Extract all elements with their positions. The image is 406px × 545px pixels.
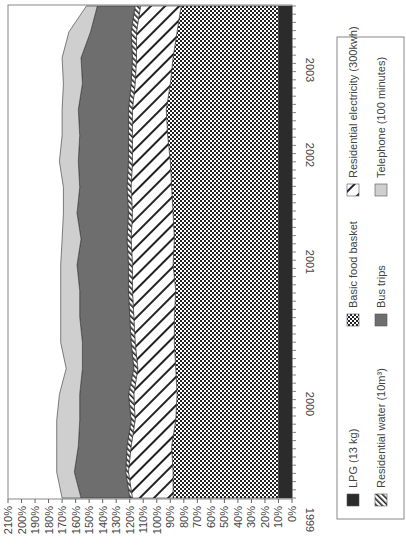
legend-swatch <box>375 494 387 506</box>
value-tick-label: 70% <box>191 506 203 528</box>
legend-label: LPG (13 kg) <box>347 429 359 488</box>
value-tick-label: 180% <box>43 506 55 534</box>
value-tick-label: 210% <box>2 506 14 534</box>
value-tick-label: 190% <box>29 506 41 534</box>
value-tick-label: 50% <box>218 506 230 528</box>
value-tick-label: 120% <box>124 506 136 534</box>
value-axis: 210%200%190%180%170%160%150%140%130%120%… <box>2 499 298 534</box>
value-tick-label: 80% <box>178 506 190 528</box>
value-tick-label: 170% <box>56 506 68 534</box>
legend-item: Bus trips <box>375 265 387 326</box>
year-label: 1999 <box>304 508 316 532</box>
legend-item: Residential electricity (300kwh) <box>347 26 359 196</box>
legend-item: LPG (13 kg) <box>347 429 359 506</box>
year-label: 2003 <box>304 58 316 82</box>
legend-swatch <box>347 314 359 326</box>
area-layers <box>57 6 292 498</box>
legend-swatch <box>347 494 359 506</box>
value-tick-label: 150% <box>83 506 95 534</box>
legend-label: Bus trips <box>375 265 387 308</box>
year-label: 2000 <box>304 392 316 416</box>
value-tick-label: 10% <box>272 506 284 528</box>
value-tick-label: 110% <box>137 506 149 534</box>
value-tick-label: 90% <box>164 506 176 528</box>
value-tick-label: 40% <box>232 506 244 528</box>
legend-swatch <box>347 184 359 196</box>
value-tick-label: 0% <box>286 506 298 522</box>
value-tick-label: 140% <box>97 506 109 534</box>
legend-item: Residential water (10m³) <box>375 368 387 506</box>
legend-label: Basic food basket <box>347 221 359 308</box>
legend-swatch <box>375 314 387 326</box>
value-tick-label: 30% <box>245 506 257 528</box>
area-bus-trips <box>74 6 135 498</box>
year-label: 2001 <box>304 250 316 274</box>
year-label: 2002 <box>304 143 316 167</box>
value-tick-label: 130% <box>110 506 122 534</box>
legend-label: Telephone (100 minutes) <box>375 57 387 178</box>
legend-swatch <box>375 184 387 196</box>
legend-label: Residential water (10m³) <box>375 368 387 488</box>
time-axis: 19992000200120022003 <box>292 6 316 532</box>
value-tick-label: 200% <box>16 506 28 534</box>
value-tick-label: 60% <box>205 506 217 528</box>
stacked-area-chart: 210%200%190%180%170%160%150%140%130%120%… <box>0 0 406 545</box>
legend-label: Residential electricity (300kwh) <box>347 26 359 178</box>
legend-item: Telephone (100 minutes) <box>375 57 387 196</box>
value-tick-label: 100% <box>151 506 163 534</box>
legend: LPG (13 kg)Basic food basketResidential … <box>337 26 404 519</box>
value-tick-label: 160% <box>70 506 82 534</box>
area-basic-food-basket <box>166 6 278 498</box>
value-tick-label: 20% <box>259 506 271 528</box>
area-lpg-13-kg <box>279 6 293 498</box>
